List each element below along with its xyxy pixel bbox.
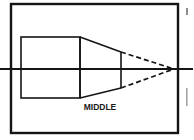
drawing-canvas: MIDDLE [0,0,194,140]
page-bleed-mark-mid-right [186,88,188,106]
page-bleed-mark-top-right [186,8,188,15]
middle-label: MIDDLE [84,102,117,112]
technical-drawing-figure: MIDDLE [0,0,194,140]
